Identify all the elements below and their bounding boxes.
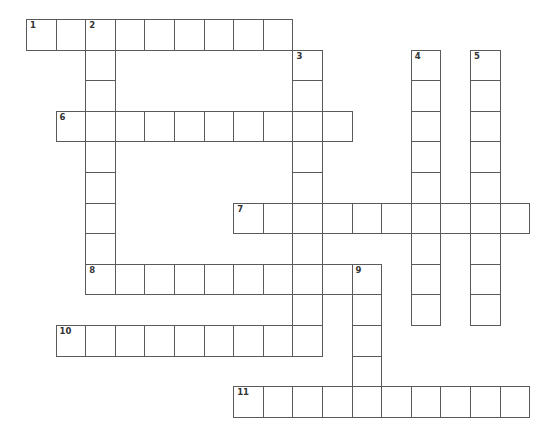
crossword-cell[interactable] xyxy=(352,325,383,357)
crossword-cell[interactable] xyxy=(322,386,353,418)
crossword-cell[interactable] xyxy=(322,264,353,296)
crossword-cell[interactable] xyxy=(411,172,442,204)
crossword-cell[interactable]: 5 xyxy=(470,50,501,82)
crossword-cell[interactable]: 7 xyxy=(233,203,264,235)
crossword-cell[interactable] xyxy=(292,294,323,326)
crossword-cell[interactable] xyxy=(352,356,383,388)
crossword-cell[interactable] xyxy=(233,325,264,357)
crossword-cell[interactable] xyxy=(263,111,294,143)
crossword-cell[interactable] xyxy=(470,203,501,235)
crossword-cell[interactable]: 2 xyxy=(85,19,116,51)
crossword-cell[interactable] xyxy=(85,203,116,235)
crossword-cell[interactable] xyxy=(292,325,323,357)
crossword-cell[interactable] xyxy=(115,111,146,143)
crossword-cell[interactable] xyxy=(352,203,383,235)
crossword-cell[interactable] xyxy=(144,264,175,296)
crossword-cell[interactable]: 9 xyxy=(352,264,383,296)
crossword-cell[interactable] xyxy=(470,386,501,418)
crossword-cell[interactable] xyxy=(204,19,235,51)
crossword-cell[interactable]: 3 xyxy=(292,50,323,82)
crossword-cell[interactable] xyxy=(233,19,264,51)
crossword-cell[interactable] xyxy=(263,325,294,357)
crossword-cell[interactable] xyxy=(470,264,501,296)
crossword-cell[interactable] xyxy=(292,264,323,296)
crossword-cell[interactable] xyxy=(204,111,235,143)
crossword-cell[interactable] xyxy=(85,141,116,173)
crossword-cell[interactable] xyxy=(381,203,412,235)
crossword-cell[interactable] xyxy=(292,111,323,143)
crossword-cell[interactable] xyxy=(322,111,353,143)
crossword-cell[interactable] xyxy=(233,111,264,143)
crossword-cell[interactable] xyxy=(144,325,175,357)
crossword-cell[interactable] xyxy=(470,172,501,204)
crossword-cell[interactable]: 1 xyxy=(26,19,57,51)
crossword-cell[interactable] xyxy=(411,141,442,173)
crossword-cell[interactable] xyxy=(470,80,501,112)
crossword-cell[interactable]: 8 xyxy=(85,264,116,296)
crossword-cell[interactable] xyxy=(56,19,87,51)
crossword-cell[interactable] xyxy=(263,386,294,418)
crossword-cell[interactable] xyxy=(204,264,235,296)
clue-number: 8 xyxy=(89,266,95,275)
crossword-cell[interactable] xyxy=(470,141,501,173)
crossword-cell[interactable] xyxy=(292,203,323,235)
crossword-cell[interactable] xyxy=(352,386,383,418)
crossword-cell[interactable] xyxy=(411,203,442,235)
crossword-cell[interactable] xyxy=(174,111,205,143)
crossword-cell[interactable] xyxy=(322,203,353,235)
clue-number: 11 xyxy=(237,388,249,397)
crossword-cell[interactable] xyxy=(292,172,323,204)
crossword-cell[interactable] xyxy=(440,203,471,235)
clue-number: 10 xyxy=(60,327,72,336)
crossword-cell[interactable] xyxy=(292,386,323,418)
crossword-cell[interactable] xyxy=(204,325,235,357)
crossword-cell[interactable] xyxy=(470,111,501,143)
crossword-cell[interactable] xyxy=(500,203,531,235)
crossword-cell[interactable] xyxy=(85,111,116,143)
clue-number: 4 xyxy=(415,52,421,61)
crossword-cell[interactable] xyxy=(85,325,116,357)
crossword-cell[interactable]: 10 xyxy=(56,325,87,357)
clue-number: 3 xyxy=(296,52,302,61)
crossword-cell[interactable] xyxy=(85,233,116,265)
crossword-cell[interactable] xyxy=(174,264,205,296)
crossword-cell[interactable] xyxy=(115,19,146,51)
clue-number: 1 xyxy=(30,21,36,30)
crossword-cell[interactable] xyxy=(470,233,501,265)
crossword-cell[interactable] xyxy=(85,50,116,82)
crossword-cell[interactable]: 4 xyxy=(411,50,442,82)
crossword-cell[interactable] xyxy=(411,294,442,326)
crossword-cell[interactable] xyxy=(440,386,471,418)
crossword-cell[interactable] xyxy=(263,203,294,235)
crossword-cell[interactable]: 11 xyxy=(233,386,264,418)
crossword-cell[interactable] xyxy=(470,294,501,326)
crossword-cell[interactable] xyxy=(411,264,442,296)
crossword-cell[interactable] xyxy=(411,386,442,418)
crossword-cell[interactable] xyxy=(144,111,175,143)
clue-number: 7 xyxy=(237,205,243,214)
crossword-cell[interactable] xyxy=(263,264,294,296)
crossword-cell[interactable] xyxy=(381,386,412,418)
crossword-cell[interactable]: 6 xyxy=(56,111,87,143)
crossword-cell[interactable] xyxy=(292,141,323,173)
crossword-cell[interactable] xyxy=(411,111,442,143)
crossword-cell[interactable] xyxy=(85,172,116,204)
crossword-cell[interactable] xyxy=(115,325,146,357)
clue-number: 9 xyxy=(356,266,362,275)
crossword-cell[interactable] xyxy=(500,386,531,418)
crossword-cell[interactable] xyxy=(352,294,383,326)
crossword-cell[interactable] xyxy=(144,19,175,51)
crossword-cell[interactable] xyxy=(85,80,116,112)
crossword-cell[interactable] xyxy=(411,233,442,265)
crossword-cell[interactable] xyxy=(411,80,442,112)
crossword-cell[interactable] xyxy=(174,19,205,51)
crossword-cell[interactable] xyxy=(233,264,264,296)
crossword-cell[interactable] xyxy=(174,325,205,357)
crossword-cell[interactable] xyxy=(292,80,323,112)
crossword-cell[interactable] xyxy=(292,233,323,265)
crossword-grid: 1283456791011 xyxy=(0,0,552,439)
clue-number: 2 xyxy=(89,21,95,30)
clue-number: 6 xyxy=(60,113,66,122)
crossword-cell[interactable] xyxy=(263,19,294,51)
crossword-cell[interactable] xyxy=(115,264,146,296)
